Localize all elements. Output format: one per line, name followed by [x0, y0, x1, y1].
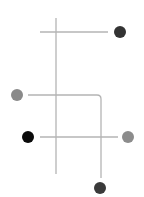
node-lower-right — [122, 131, 134, 143]
node-mid-left — [11, 89, 23, 101]
node-top-right — [114, 26, 126, 38]
node-lower-left — [22, 131, 34, 143]
node-bottom — [94, 182, 106, 194]
diagram-canvas — [0, 0, 144, 197]
